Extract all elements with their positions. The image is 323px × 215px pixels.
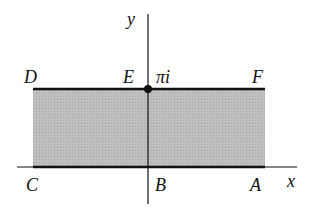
x-axis-label: x (286, 171, 295, 191)
point-pi-i (144, 85, 152, 93)
label-E: E (122, 67, 134, 87)
shaded-strip (33, 89, 265, 167)
label-pi-i: πi (156, 67, 170, 87)
y-axis-label: y (125, 9, 135, 29)
label-F: F (251, 67, 264, 87)
strip-diagram: y x D E πi F C B A (0, 0, 323, 215)
label-C: C (26, 175, 39, 195)
label-A: A (249, 175, 262, 195)
label-D: D (23, 67, 37, 87)
label-B: B (155, 175, 166, 195)
